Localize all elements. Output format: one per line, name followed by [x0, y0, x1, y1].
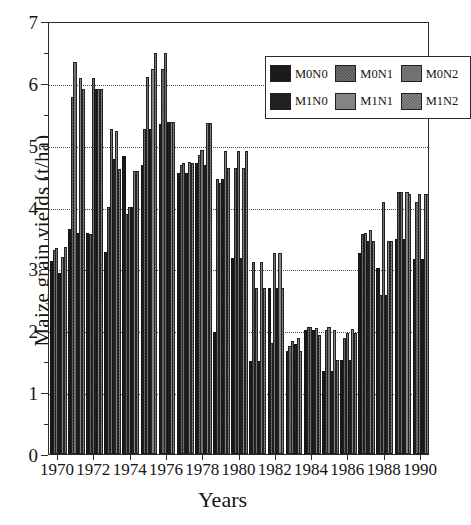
x-tick-label: 1978 — [185, 461, 219, 478]
x-axis-title: Years — [0, 487, 445, 513]
y-tick-major — [41, 393, 48, 394]
bar — [82, 89, 85, 454]
bar — [390, 241, 393, 454]
bar-group — [122, 23, 138, 454]
bar — [372, 241, 375, 454]
bar-group — [86, 23, 102, 454]
x-tick-label: 1972 — [76, 461, 110, 478]
x-axis-tick-labels: 1970197219741976197819801982198419861988… — [0, 461, 445, 487]
legend-swatch — [335, 65, 356, 82]
x-tick-label: 1980 — [222, 461, 256, 478]
bar — [245, 151, 248, 454]
y-tick-major — [41, 455, 48, 456]
bar-group — [159, 23, 175, 454]
legend-item: M0N2 — [401, 65, 466, 82]
y-tick-label: 4 — [29, 198, 39, 217]
bar-group — [195, 23, 211, 454]
x-tick-label: 1988 — [367, 461, 401, 478]
bar — [172, 122, 175, 454]
y-axis-ticks: 01234567 — [0, 22, 48, 455]
legend-item: M1N1 — [335, 93, 400, 110]
y-tick-major — [41, 269, 48, 270]
legend-label: M0N2 — [426, 68, 459, 81]
y-tick-label: 5 — [29, 136, 39, 155]
legend-label: M0N0 — [295, 68, 328, 81]
legend-item: M1N2 — [401, 93, 466, 110]
bar-group — [68, 23, 84, 454]
bar — [354, 333, 357, 454]
bar — [100, 89, 103, 454]
legend-swatch — [335, 93, 356, 110]
legend-item: M1N0 — [270, 93, 335, 110]
bar — [281, 288, 284, 454]
x-tick-label: 1974 — [113, 461, 147, 478]
y-tick-major — [41, 331, 48, 332]
y-tick-label: 3 — [29, 260, 39, 279]
y-tick-label: 1 — [29, 384, 39, 403]
legend-label: M0N1 — [360, 68, 393, 81]
bar-group — [177, 23, 193, 454]
x-tick-label: 1982 — [258, 461, 292, 478]
x-tick-label: 1976 — [149, 461, 183, 478]
bar — [136, 171, 139, 454]
bar — [263, 288, 266, 454]
legend-label: M1N2 — [426, 95, 459, 108]
legend-label: M1N1 — [360, 95, 393, 108]
bar-group — [249, 23, 265, 454]
bar — [154, 53, 157, 454]
y-tick-major — [41, 146, 48, 147]
legend-swatch — [270, 93, 291, 110]
legend-swatch — [270, 65, 291, 82]
legend-label: M1N0 — [295, 95, 328, 108]
legend-item: M0N1 — [335, 65, 400, 82]
bar — [64, 247, 67, 454]
bar — [318, 335, 321, 454]
x-tick-label: 1986 — [330, 461, 364, 478]
bar — [118, 169, 121, 454]
bar-group — [104, 23, 120, 454]
bar — [227, 168, 230, 454]
x-tick-label: 1984 — [294, 461, 328, 478]
bar — [299, 351, 302, 454]
legend-swatch — [401, 93, 422, 110]
bar-group — [141, 23, 157, 454]
bar — [336, 360, 339, 454]
y-tick-label: 2 — [29, 322, 39, 341]
y-tick-label: 7 — [29, 13, 39, 32]
bar-group — [213, 23, 229, 454]
bar — [209, 123, 212, 454]
bar-group — [231, 23, 247, 454]
x-tick-label: 1990 — [403, 461, 437, 478]
bar — [191, 163, 194, 454]
plot-area: M0N0M0N1M0N2M1N0M1N1M1N2 — [48, 22, 429, 455]
y-tick-major — [41, 84, 48, 85]
bar — [426, 194, 429, 454]
y-tick-label: 6 — [29, 74, 39, 93]
legend-swatch — [401, 65, 422, 82]
y-tick-major — [41, 208, 48, 209]
x-tick-label: 1970 — [40, 461, 74, 478]
legend-item: M0N0 — [270, 65, 335, 82]
bar — [408, 194, 411, 454]
legend: M0N0M0N1M0N2M1N0M1N1M1N2 — [265, 56, 471, 119]
y-tick-major — [41, 22, 48, 23]
bar-group — [50, 23, 66, 454]
